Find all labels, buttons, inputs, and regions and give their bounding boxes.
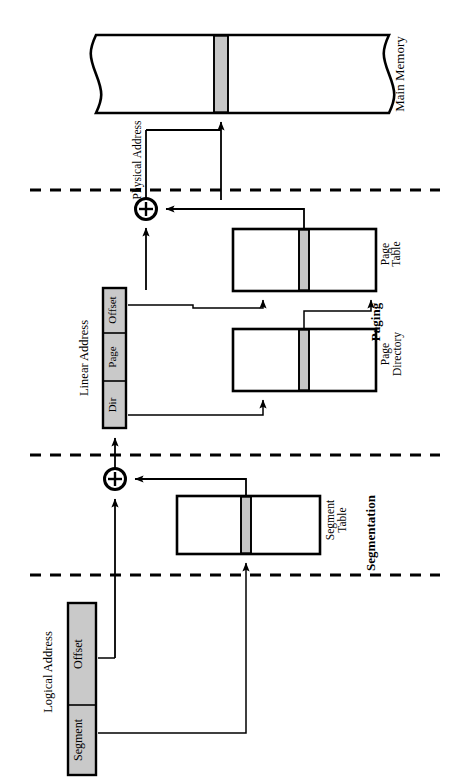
page-directory-to-page-table-wire xyxy=(304,300,371,330)
segment-field-to-segment-table-wire xyxy=(98,563,246,733)
section-label-paging: Paging xyxy=(368,302,383,341)
segment-table-to-adder-wire xyxy=(135,479,246,496)
logical-address-label: Logical Address xyxy=(41,631,55,713)
linear-address-field-dir: Dir xyxy=(106,397,118,412)
main-memory-label: Main Memory xyxy=(392,36,407,112)
page-table-label-line2: Table xyxy=(390,241,402,266)
physical-address-label-line1: Physical Address xyxy=(131,120,144,199)
logical-address-field-offset: Offset xyxy=(71,638,85,668)
page-table-entry-band xyxy=(299,230,309,290)
page-directory-entry-band xyxy=(299,330,309,390)
page-directory-label-line2: Directory xyxy=(391,332,404,376)
segment-table-block xyxy=(177,496,320,554)
section-label-segmentation: Segmentation xyxy=(363,494,378,571)
page-table-block xyxy=(233,229,376,291)
segment-table-entry-band xyxy=(241,497,251,553)
linear-address-field-page: Page xyxy=(106,346,118,368)
main-memory-frame-band xyxy=(214,36,228,112)
paging-adder xyxy=(136,199,157,220)
logical-address-field-segment: Segment xyxy=(71,718,85,761)
segmentation-adder xyxy=(105,469,126,490)
linear-address-field-offset: Offset xyxy=(106,296,118,323)
diagram-canvas: Main Memory Physical Address Page Table … xyxy=(0,0,461,783)
address-translation-diagram: Main Memory Physical Address Page Table … xyxy=(0,0,461,783)
main-memory-block xyxy=(91,35,395,113)
page-table-to-adder-wire xyxy=(166,209,304,230)
page-field-to-page-table-wire xyxy=(128,300,263,308)
page-directory-block xyxy=(233,329,376,391)
segment-table-label-line2: Table xyxy=(336,507,348,532)
dir-field-to-page-directory-wire xyxy=(128,400,263,415)
linear-address-label: Linear Address xyxy=(77,320,91,396)
